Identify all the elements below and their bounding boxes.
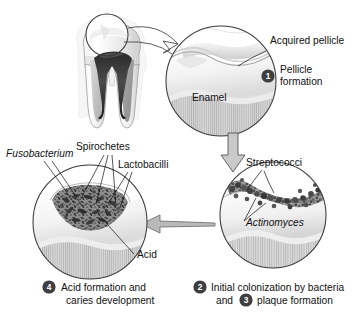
dental-plaque-diagram: Acquired pellicle Enamel 1 Pellicle form…: [0, 0, 360, 319]
caption-4-line1: Acid formation and: [61, 282, 146, 293]
badge-4-number: 4: [47, 282, 52, 292]
caption-1-line1: Pellicle: [280, 64, 313, 75]
label-spirochetes: Spirochetes: [76, 141, 130, 152]
label-lactobacilli: Lactobacilli: [118, 159, 168, 170]
label-acid: Acid: [137, 249, 157, 260]
label-actinomyces: Actinomyces: [245, 217, 304, 228]
label-streptococci: Streptococci: [246, 157, 302, 168]
badge-3-number: 3: [244, 295, 249, 305]
caption-2-and: and: [216, 295, 233, 306]
caption-1-line2: formation: [280, 76, 322, 87]
caption-2-line1: Initial colonization by bacteria: [211, 282, 344, 293]
caption-4-line2: caries development: [66, 295, 155, 306]
label-enamel: Enamel: [192, 92, 227, 103]
label-fusobacterium: Fusobacterium: [6, 148, 74, 159]
badge-2-number: 2: [198, 282, 203, 292]
label-acquired-pellicle: Acquired pellicle: [270, 35, 345, 46]
badge-1-number: 1: [266, 71, 271, 81]
caption-3-line: plaque formation: [257, 295, 333, 306]
